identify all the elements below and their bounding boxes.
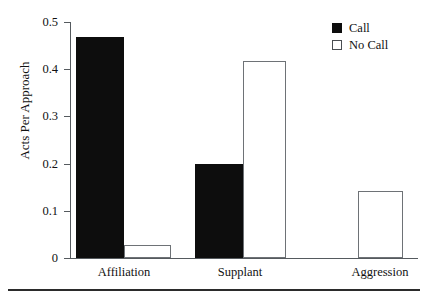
x-category-label-affiliation: Affiliation: [74, 266, 174, 279]
bar-affiliation-no-call: [124, 245, 171, 258]
bottom-divider: [8, 289, 420, 291]
legend-entry-no-call: No Call: [332, 37, 388, 53]
y-tick-mark-0.1: [64, 211, 71, 212]
legend-entry-call: Call: [332, 20, 388, 36]
y-tick-mark-0.4: [64, 69, 71, 70]
y-tick-mark-0.3: [64, 116, 71, 117]
y-tick-label-0.3: 0.3: [12, 110, 58, 123]
x-axis-line: [70, 258, 418, 259]
y-axis-line: [70, 22, 71, 259]
x-category-label-supplant: Supplant: [190, 266, 290, 279]
y-tick-mark-0: [64, 258, 71, 259]
y-tick-label-0.2: 0.2: [12, 158, 58, 171]
open-square-icon: [332, 40, 342, 50]
bar-chart-figure: Acts Per Approach 0.5 0.4 0.3 0.2 0.1 0 …: [0, 0, 428, 300]
legend-label-no-call: No Call: [349, 39, 388, 52]
bar-supplant-no-call: [243, 61, 286, 258]
y-tick-label-0: 0: [12, 252, 58, 265]
y-tick-label-0.1: 0.1: [12, 205, 58, 218]
legend-label-call: Call: [349, 22, 370, 35]
y-tick-mark-0.2: [64, 164, 71, 165]
bar-affiliation-call: [76, 37, 124, 258]
x-category-label-aggression: Aggression: [330, 266, 428, 279]
chart-legend: Call No Call: [332, 20, 388, 54]
bar-aggression-no-call: [358, 191, 403, 258]
bar-supplant-call: [195, 164, 243, 258]
y-tick-mark-0.5: [64, 22, 71, 23]
y-tick-label-0.4: 0.4: [12, 63, 58, 76]
filled-square-icon: [332, 23, 342, 33]
y-tick-label-0.5: 0.5: [12, 16, 58, 29]
